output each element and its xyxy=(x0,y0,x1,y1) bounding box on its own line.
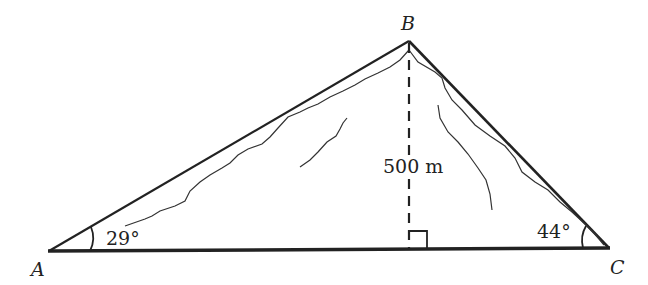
vertex-label-b: B xyxy=(401,14,415,33)
side-bc xyxy=(409,41,609,248)
angle-label-a: 29° xyxy=(106,229,140,248)
right-angle-marker xyxy=(409,231,427,249)
height-label: 500 m xyxy=(381,157,445,176)
angle-arc-a xyxy=(90,227,93,251)
mountain-ridge-left xyxy=(300,118,347,167)
mountain-ridge-right xyxy=(438,105,492,210)
mountain-contour-left xyxy=(125,50,409,226)
angle-label-c: 44° xyxy=(537,222,571,241)
vertex-label-a: A xyxy=(31,260,45,279)
side-ab xyxy=(49,41,409,251)
triangle-diagram xyxy=(0,0,648,285)
mountain-contour-right xyxy=(409,50,604,245)
angle-arc-c xyxy=(582,226,586,248)
vertex-label-c: C xyxy=(610,258,625,277)
